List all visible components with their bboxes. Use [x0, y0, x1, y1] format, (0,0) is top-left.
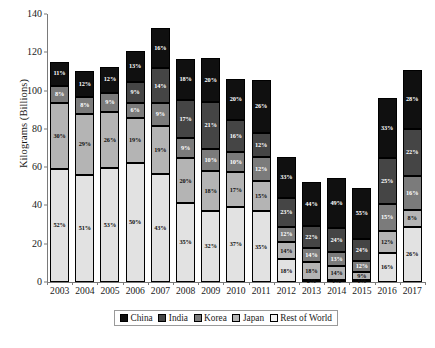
bar-group[interactable]: 26%12%12%15%35% [252, 14, 271, 282]
bar-group[interactable]: 20%16%10%17%37% [226, 14, 245, 282]
bar-segment[interactable]: 52% [50, 169, 69, 282]
bar-segment[interactable]: 9% [151, 103, 170, 126]
x-tick-label: 2012 [277, 285, 296, 296]
bar-segment-label: 26% [406, 251, 418, 257]
bar-segment[interactable]: 11% [50, 62, 69, 86]
bar-segment[interactable]: 12% [75, 71, 94, 96]
bar-segment[interactable]: 18% [201, 171, 220, 211]
bar-segment[interactable]: 24% [352, 239, 371, 261]
bar-group[interactable]: 12%9%26%53% [100, 14, 119, 282]
legend-item[interactable]: Japan [232, 313, 264, 323]
bar-segment[interactable]: 50% [126, 163, 145, 282]
bar-segment[interactable]: 16% [403, 176, 422, 210]
bar-segment[interactable]: 12% [378, 231, 397, 253]
bar-segment[interactable]: 17% [176, 100, 195, 138]
bar-group[interactable]: 33%25%15%12%16% [378, 14, 397, 282]
bar-segment[interactable]: 12% [252, 157, 271, 181]
bar-group[interactable]: 28%22%16%8%26% [403, 14, 422, 282]
x-tick-label: 2014 [327, 285, 346, 296]
bar-segment[interactable]: 14% [302, 248, 321, 262]
legend-item[interactable]: China [120, 313, 153, 323]
bar-segment[interactable]: 44% [302, 182, 321, 226]
legend-item[interactable]: Korea [194, 313, 227, 323]
bar-segment[interactable]: 21% [201, 102, 220, 149]
bar-segment[interactable]: 28% [403, 70, 422, 129]
bar-segment[interactable]: 29% [75, 114, 94, 175]
bar-segment[interactable]: 51% [75, 175, 94, 282]
bar-segment[interactable]: 12% [252, 133, 271, 157]
bar-segment[interactable]: 24% [327, 228, 346, 253]
legend-item[interactable]: Rest of World [270, 313, 332, 323]
bar-segment[interactable]: 22% [403, 129, 422, 176]
bar-segment[interactable]: 17% [226, 172, 245, 206]
bar-segment[interactable]: 10% [226, 152, 245, 172]
x-tick-label: 2003 [50, 285, 69, 296]
bar-segment[interactable]: 32% [201, 211, 220, 282]
bar-segment[interactable]: 37% [226, 207, 245, 282]
bar-segment[interactable]: 18% [176, 59, 195, 99]
bar-segment[interactable]: 2% [302, 280, 321, 282]
bar-segment[interactable]: 6% [126, 103, 145, 117]
bar-segment[interactable]: 19% [151, 126, 170, 174]
bar-segment[interactable]: 1% [352, 280, 371, 282]
bar-segment[interactable]: 20% [176, 158, 195, 203]
legend-label: Korea [204, 313, 227, 323]
bar-segment[interactable]: 13% [126, 51, 145, 82]
bar-group[interactable]: 16%14%9%19%43% [151, 14, 170, 282]
bar-segment[interactable]: 15% [378, 204, 397, 231]
x-tick-label: 2004 [75, 285, 94, 296]
bar-segment[interactable]: 16% [226, 120, 245, 152]
y-tick-label: 140 [27, 9, 42, 19]
bar-segment[interactable]: 12% [277, 227, 296, 242]
bar-segment[interactable]: 13% [327, 252, 346, 265]
bar-segment[interactable]: 10% [201, 149, 220, 171]
bar-segment[interactable]: 8% [75, 97, 94, 114]
bar-segment[interactable]: 8% [50, 86, 69, 103]
bar-segment[interactable]: 15% [252, 181, 271, 211]
bar-group[interactable]: 20%21%10%18%32% [201, 14, 220, 282]
bar-segment[interactable]: 53% [100, 168, 119, 282]
bar-segment[interactable]: 16% [151, 28, 170, 68]
bar-segment[interactable]: 14% [277, 242, 296, 260]
bar-segment[interactable]: 9% [176, 138, 195, 158]
legend-item[interactable]: India [158, 313, 188, 323]
bar-segment[interactable]: 25% [378, 158, 397, 203]
bar-group[interactable]: 49%24%13%14%1% [327, 14, 346, 282]
bar-group[interactable]: 13%9%6%19%50% [126, 14, 145, 282]
bar-group[interactable]: 12%8%29%51% [75, 14, 94, 282]
bar-segment-label: 14% [305, 252, 317, 258]
bar-segment[interactable]: 23% [277, 198, 296, 227]
bar-segment[interactable]: 12% [352, 261, 371, 272]
bar-segment[interactable]: 26% [403, 227, 422, 282]
bar-segment-label: 12% [255, 166, 267, 172]
bar-segment[interactable]: 1% [327, 280, 346, 282]
bar-group[interactable]: 55%24%12%9%1% [352, 14, 371, 282]
bar-group[interactable]: 18%17%9%20%35% [176, 14, 195, 282]
legend-swatch-icon [158, 314, 166, 322]
bar-segment[interactable]: 49% [327, 178, 346, 228]
bar-segment[interactable]: 8% [403, 210, 422, 227]
bar-segment[interactable]: 30% [50, 103, 69, 168]
bar-group[interactable]: 44%22%14%18%2% [302, 14, 321, 282]
bar-segment[interactable]: 20% [226, 79, 245, 120]
bar-segment[interactable]: 43% [151, 174, 170, 282]
bar-segment[interactable]: 9% [126, 82, 145, 103]
bar-segment[interactable]: 9% [100, 93, 119, 112]
bar-segment[interactable]: 33% [378, 98, 397, 158]
bar-group[interactable]: 33%23%12%14%18% [277, 14, 296, 282]
bar-segment[interactable]: 14% [151, 68, 170, 103]
bar-segment[interactable]: 19% [126, 118, 145, 163]
bar-segment[interactable]: 26% [252, 80, 271, 133]
bar-segment[interactable]: 20% [201, 58, 220, 102]
bar-segment[interactable]: 26% [100, 112, 119, 168]
bar-segment[interactable]: 35% [176, 203, 195, 282]
bar-segment[interactable]: 33% [277, 157, 296, 198]
bar-segment[interactable]: 55% [352, 188, 371, 239]
bar-segment[interactable]: 35% [252, 211, 271, 282]
bar-group[interactable]: 11%8%30%52% [50, 14, 69, 282]
bar-segment-label: 16% [381, 264, 393, 270]
bar-segment[interactable]: 18% [277, 259, 296, 282]
bar-segment[interactable]: 22% [302, 226, 321, 248]
bar-segment[interactable]: 12% [100, 67, 119, 93]
bar-segment[interactable]: 16% [378, 253, 397, 282]
